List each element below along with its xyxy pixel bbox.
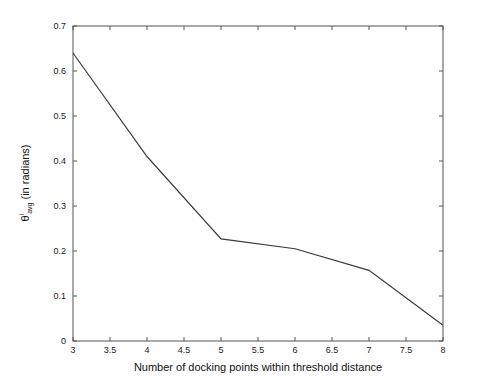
y-axis-title: θiavg (in radians) xyxy=(18,144,33,221)
x-axis-title: Number of docking points within threshol… xyxy=(134,361,382,373)
x-tick-label: 4.5 xyxy=(178,345,191,355)
x-tick-label: 3.5 xyxy=(104,345,117,355)
x-tick-label: 7 xyxy=(366,345,371,355)
x-axis-ticks xyxy=(73,26,443,341)
x-tick-label: 5.5 xyxy=(252,345,265,355)
x-tick-label: 8 xyxy=(440,345,445,355)
x-tick-label: 7.5 xyxy=(400,345,413,355)
y-axis-title-superscript: i xyxy=(18,214,25,216)
y-tick-label: 0.5 xyxy=(53,111,66,121)
axes-frame xyxy=(73,26,443,341)
y-axis-title-theta: θ xyxy=(19,215,31,221)
data-series-line xyxy=(73,53,443,325)
x-tick-label: 4 xyxy=(144,345,149,355)
chart-figure: 33.544.555.566.577.58 00.10.20.30.40.50.… xyxy=(0,0,478,383)
y-tick-label: 0.6 xyxy=(53,66,66,76)
x-tick-label: 6 xyxy=(292,345,297,355)
x-tick-label: 5 xyxy=(218,345,223,355)
y-axis-title-subscript: avg xyxy=(26,203,33,214)
plot-canvas xyxy=(0,0,478,383)
y-tick-label: 0.1 xyxy=(53,291,66,301)
y-tick-label: 0 xyxy=(61,336,66,346)
x-tick-label: 3 xyxy=(70,345,75,355)
y-tick-label: 0.3 xyxy=(53,201,66,211)
y-axis-title-units: (in radians) xyxy=(19,144,31,199)
x-tick-label: 6.5 xyxy=(326,345,339,355)
y-tick-label: 0.2 xyxy=(53,246,66,256)
y-axis-ticks xyxy=(73,26,443,341)
y-tick-label: 0.4 xyxy=(53,156,66,166)
y-tick-label: 0.7 xyxy=(53,21,66,31)
